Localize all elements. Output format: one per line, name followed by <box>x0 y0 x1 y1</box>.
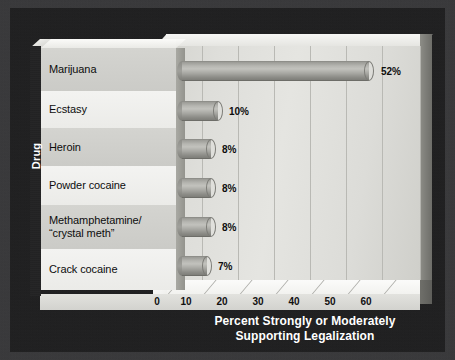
plot-right-side-face-lower <box>420 280 432 304</box>
gridline-30 <box>274 46 275 280</box>
axis-label-10: 10 <box>176 294 196 310</box>
category-label-crack-cocaine: Crack cocaine <box>49 263 117 276</box>
bar-value-crack-cocaine: 7% <box>218 261 232 272</box>
axis-label-60: 60 <box>356 294 376 310</box>
x-axis-title: Percent Strongly or Moderately Supportin… <box>160 314 450 344</box>
bar-methamphetamine[interactable] <box>182 217 211 237</box>
axis-label-50: 50 <box>320 294 340 310</box>
axis-label-20: 20 <box>212 294 232 310</box>
x-axis-title-line-1: Percent Strongly or Moderately <box>160 314 450 329</box>
bar-end-cap-ecstasy <box>213 101 223 121</box>
category-label-heroin: Heroin <box>49 141 81 154</box>
label-panel-top-surface <box>40 39 176 48</box>
bar-value-powder-cocaine: 8% <box>222 183 236 194</box>
bar-value-ecstasy: 10% <box>229 106 249 117</box>
bar-ecstasy[interactable] <box>182 101 218 121</box>
bar-heroin[interactable] <box>182 139 211 159</box>
bar-value-methamphetamine: 8% <box>222 222 236 233</box>
gridline-60 <box>382 46 383 280</box>
label-panel-side-face <box>176 48 185 290</box>
axis-band-left <box>40 294 154 310</box>
gridline-10 <box>202 46 203 280</box>
category-label-panel: Marijuana Ecstasy Heroin Powder cocaine <box>40 48 176 290</box>
bar-end-cap-powder-cocaine <box>206 178 216 198</box>
bar-crack-cocaine[interactable] <box>182 256 207 276</box>
bar-end-cap-methamphetamine <box>206 217 216 237</box>
category-row-marijuana[interactable]: Marijuana <box>40 48 176 91</box>
category-row-crack-cocaine[interactable]: Crack cocaine <box>40 249 176 290</box>
axis-label-40: 40 <box>284 294 304 310</box>
page-background: 0 10 20 30 40 50 60 Marijuana Ecstasy H <box>0 0 455 360</box>
gridline-20 <box>238 46 239 280</box>
category-row-ecstasy[interactable]: Ecstasy <box>40 91 176 128</box>
bar-value-marijuana: 52% <box>381 66 401 77</box>
y-axis-title: Drug <box>30 128 42 184</box>
bar-end-cap-crack-cocaine <box>202 256 212 276</box>
y-axis-title-band: Drug <box>30 46 41 296</box>
category-label-marijuana: Marijuana <box>49 63 96 76</box>
category-label-powder-cocaine: Powder cocaine <box>49 179 126 192</box>
category-row-powder-cocaine[interactable]: Powder cocaine <box>40 166 176 205</box>
bar-powder-cocaine[interactable] <box>182 178 211 198</box>
axis-label-30: 30 <box>248 294 268 310</box>
plot-area <box>166 46 421 280</box>
x-axis-title-line-2: Supporting Legalization <box>160 329 450 344</box>
category-row-heroin[interactable]: Heroin <box>40 128 176 166</box>
bar-marijuana[interactable] <box>182 61 369 81</box>
gridline-50 <box>346 46 347 280</box>
bar-body-marijuana <box>182 61 369 81</box>
chart-card: 0 10 20 30 40 50 60 Marijuana Ecstasy H <box>10 8 445 352</box>
category-label-ecstasy: Ecstasy <box>49 103 87 116</box>
bar-end-cap-heroin <box>206 139 216 159</box>
plot-right-side-face <box>420 34 432 292</box>
bar-value-heroin: 8% <box>222 144 236 155</box>
gridline-40 <box>310 46 311 280</box>
category-label-methamphetamine: Methamphetamine/ “crystal meth” <box>49 214 142 240</box>
category-row-methamphetamine[interactable]: Methamphetamine/ “crystal meth” <box>40 205 176 249</box>
bar-end-cap-marijuana <box>364 61 374 81</box>
axis-label-0: 0 <box>147 294 167 310</box>
